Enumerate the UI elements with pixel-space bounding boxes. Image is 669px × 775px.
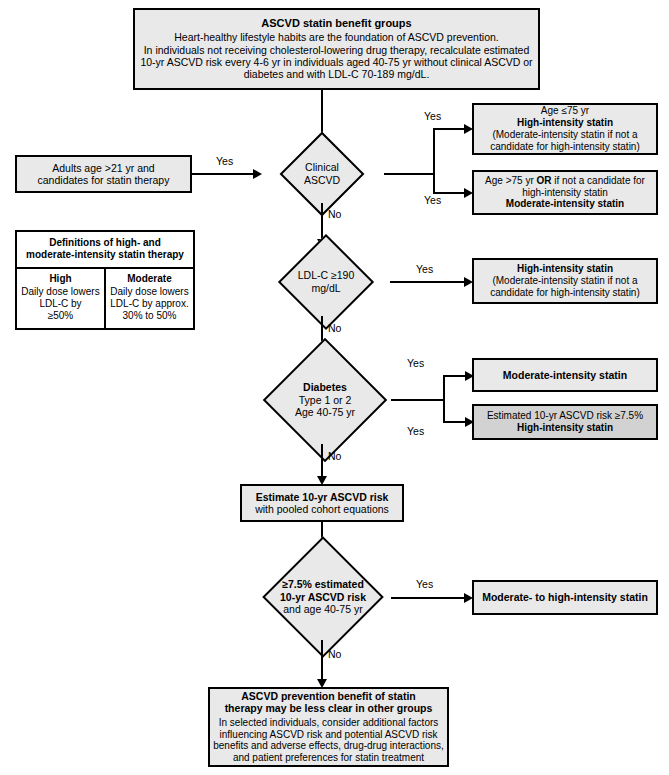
start-box: Adults age >21 yr and candidates for sta… [15, 155, 192, 193]
definitions-moderate-line-1: Daily dose lowers [109, 286, 190, 298]
edge-label-ldl-yes: Yes [416, 263, 433, 275]
definitions-moderate-line-3: 30% to 50% [109, 310, 190, 322]
edge-label-ascvd-no: No [328, 208, 341, 220]
edge-label-diabetes-yes-2: Yes [407, 425, 424, 437]
definitions-body: High Daily dose lowers LDL-C by ≥50% Mod… [17, 269, 193, 328]
definitions-high-line-2: LDL-C by [20, 298, 101, 310]
edge-label-ldl-no: No [328, 322, 341, 334]
definitions-moderate-heading: Moderate [109, 273, 190, 285]
outcome-ldl-line-1: High-intensity statin [517, 263, 613, 275]
connector-risk-yes [391, 597, 469, 599]
footer-title-line-1: ASCVD prevention benefit of statin [241, 690, 415, 702]
flowchart-canvas: ASCVD statin benefit groups Heart-health… [0, 0, 669, 775]
outcome-gt75-line-3: Moderate-intensity statin [506, 198, 624, 210]
decision-risk-line-3: and age 40-75 yr [280, 603, 366, 616]
definitions-header-line-1: Definitions of high- and [21, 237, 189, 249]
outcome-risk-moderate-to-high: Moderate- to high-intensity statin [472, 580, 658, 615]
decision-risk-threshold-text: ≥7.5% estimated 10-yr ASCVD risk and age… [280, 578, 366, 616]
edge-label-risk-no: No [328, 648, 341, 660]
footer-box: ASCVD prevention benefit of statin thera… [208, 687, 449, 767]
outcome-diabetes-moderate-line-1: Moderate-intensity statin [503, 369, 627, 381]
connector-diabetes-right-riser [443, 375, 445, 423]
outcome-le75-line-4: candidate for high-intensity statin) [490, 141, 640, 153]
footer-title-line-2: therapy may be less clear in other group… [225, 702, 433, 714]
outcome-ldl-line-3: candidate for high-intensity statin) [490, 287, 640, 299]
estimate-risk-line-2: with pooled cohort equations [255, 503, 389, 515]
header-line-1: Heart-healthy lifestyle habits are the f… [174, 31, 499, 43]
definitions-high-heading: High [20, 273, 101, 285]
outcome-gt75-line-1c: if not a candidate for [552, 175, 645, 186]
decision-ldl-c-text: LDL-C ≥190 mg/dL [298, 269, 355, 294]
footer-line-4: and patient preferences for statin treat… [233, 752, 424, 764]
definitions-table: Definitions of high- and moderate-intens… [15, 230, 195, 330]
decision-clinical-ascvd-line-1: Clinical [304, 161, 340, 174]
decision-risk-line-2: 10-yr ASCVD risk [280, 591, 366, 604]
connector-ascvd-right-riser [433, 128, 435, 194]
connector-header-to-ascvd [321, 90, 323, 133]
arrowhead-start-to-ascvd [253, 169, 262, 179]
outcome-diabetes-high: Estimated 10-yr ASCVD risk ≥7.5% High-in… [472, 404, 658, 440]
header-line-3: 10-yr ASCVD risk every 4-6 yr in individ… [140, 56, 532, 68]
outcome-gt75-line-1: Age >75 yr OR if not a candidate for [485, 175, 645, 187]
outcome-ascvd-age-le75: Age ≤75 yr High-intensity statin (Modera… [472, 103, 658, 155]
header-title: ASCVD statin benefit groups [261, 17, 411, 30]
decision-diabetes-text: Diabetes Type 1 or 2 Age 40-75 yr [295, 381, 355, 419]
footer-line-1: In selected individuals, consider additi… [219, 717, 439, 729]
definitions-header: Definitions of high- and moderate-intens… [17, 232, 193, 269]
connector-risk-no [321, 640, 323, 683]
header-line-4: diabetes and with LDL-C 70-189 mg/dL. [244, 68, 430, 80]
start-line-1: Adults age >21 yr and [52, 162, 154, 174]
definitions-header-line-2: moderate-intensity statin therapy [21, 249, 189, 261]
connector-diabetes-no [321, 444, 323, 480]
edge-label-risk-yes: Yes [416, 578, 433, 590]
definitions-column-high: High Daily dose lowers LDL-C by ≥50% [17, 269, 104, 328]
edge-label-start-yes: Yes [216, 155, 233, 167]
outcome-ldl-high-intensity: High-intensity statin (Moderate-intensit… [472, 258, 658, 304]
connector-ascvd-right-stem [384, 173, 434, 175]
outcome-le75-line-2: High-intensity statin [517, 117, 613, 129]
decision-risk-threshold: ≥7.5% estimated 10-yr ASCVD risk and age… [255, 554, 391, 640]
start-line-2: candidates for statin therapy [38, 174, 170, 186]
outcome-diabetes-high-line-1: Estimated 10-yr ASCVD risk ≥7.5% [487, 410, 643, 422]
decision-risk-line-1: ≥7.5% estimated [280, 578, 366, 591]
decision-clinical-ascvd: Clinical ASCVD [263, 145, 381, 203]
estimate-risk-box: Estimate 10-yr ASCVD risk with pooled co… [240, 484, 404, 522]
edge-label-diabetes-no: No [328, 450, 341, 462]
edge-label-diabetes-yes-1: Yes [407, 357, 424, 369]
connector-diabetes-right-stem [391, 399, 444, 401]
header-box: ASCVD statin benefit groups Heart-health… [133, 8, 540, 90]
connector-ldl-yes [390, 281, 469, 283]
connector-start-to-ascvd [192, 173, 254, 175]
definitions-high-line-1: Daily dose lowers [20, 286, 101, 298]
definitions-moderate-line-2: LDL-C by approx. [109, 298, 190, 310]
decision-clinical-ascvd-text: Clinical ASCVD [304, 161, 340, 186]
decision-ldl-c-line-2: mg/dL [298, 282, 355, 295]
outcome-risk-line-1: Moderate- to high-intensity statin [482, 591, 648, 603]
outcome-diabetes-high-line-2: High-intensity statin [517, 422, 613, 434]
outcome-ascvd-age-gt75: Age >75 yr OR if not a candidate for hig… [472, 170, 658, 215]
definitions-column-moderate: Moderate Daily dose lowers LDL-C by appr… [104, 269, 193, 328]
decision-ldl-c: LDL-C ≥190 mg/dL [262, 248, 390, 316]
decision-diabetes-line-2: Type 1 or 2 [295, 394, 355, 407]
edge-label-ascvd-yes-2: Yes [424, 194, 441, 206]
outcome-le75-line-3: (Moderate-intensity statin if not a [492, 129, 637, 141]
definitions-high-line-3: ≥50% [20, 310, 101, 322]
decision-diabetes-line-3: Age 40-75 yr [295, 406, 355, 419]
decision-ldl-c-line-1: LDL-C ≥190 [298, 269, 355, 282]
outcome-gt75-line-1a: Age >75 yr [485, 175, 536, 186]
outcome-le75-line-1: Age ≤75 yr [541, 105, 589, 117]
outcome-ldl-line-2: (Moderate-intensity statin if not a [492, 275, 637, 287]
decision-diabetes: Diabetes Type 1 or 2 Age 40-75 yr [259, 356, 391, 444]
header-line-2: In individuals not receiving cholesterol… [144, 44, 530, 56]
decision-diabetes-line-1: Diabetes [295, 381, 355, 394]
edge-label-ascvd-yes-1: Yes [424, 110, 441, 122]
footer-line-2: influencing ASCVD risk and potential ASC… [220, 729, 438, 741]
outcome-gt75-line-2: high-intensity statin [522, 187, 608, 199]
estimate-risk-line-1: Estimate 10-yr ASCVD risk [256, 491, 389, 503]
footer-line-3: benefits and adverse effects, drug-drug … [213, 740, 444, 752]
outcome-gt75-line-1b: OR [537, 175, 552, 186]
decision-clinical-ascvd-line-2: ASCVD [304, 174, 340, 187]
outcome-diabetes-moderate: Moderate-intensity statin [472, 358, 658, 392]
